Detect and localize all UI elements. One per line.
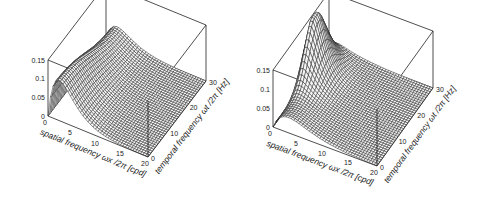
- t-tick-label: 0: [380, 164, 384, 171]
- z-tick-label: 0.1: [35, 75, 45, 82]
- x-tick-label: 5: [68, 129, 72, 136]
- x-tick-label: 10: [318, 150, 326, 157]
- x-tick-label: 0: [43, 119, 47, 126]
- x-tick-label: 15: [116, 150, 124, 157]
- x-tick-label: 20: [141, 160, 149, 167]
- x-tick-label: 20: [370, 169, 378, 176]
- z-tick-label: 0.15: [256, 67, 270, 74]
- surface-plot-left: 0.150.10.050051015200102030spatial frequ…: [31, 0, 231, 179]
- x-tick-label: 5: [294, 140, 298, 147]
- x-tick-label: 15: [344, 159, 352, 166]
- z-axis-ticks: 0.150.10.050: [31, 57, 45, 120]
- t-tick-label: 0: [151, 155, 155, 162]
- surface-plot-right: 0.150.10.050051015200102030spatial frequ…: [256, 0, 458, 188]
- z-tick-label: 0.05: [256, 105, 270, 112]
- z-tick-label: 0.1: [260, 86, 270, 93]
- x-tick-label: 10: [91, 140, 99, 147]
- z-axis-ticks: 0.150.10.050: [256, 67, 270, 131]
- x-tick-label: 0: [268, 130, 272, 137]
- z-tick-label: 0.15: [31, 57, 45, 64]
- z-tick-label: 0.05: [31, 94, 45, 101]
- figure: 0.150.10.050051015200102030spatial frequ…: [0, 0, 488, 204]
